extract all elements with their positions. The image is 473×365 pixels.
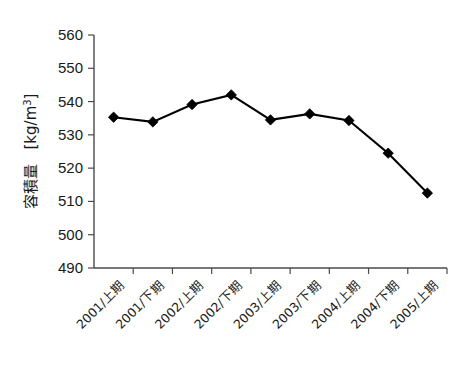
chart-figure: 490500510520530540550560 容積量 [kg/m3] 200…: [0, 0, 473, 365]
y-tick-label: 510: [58, 192, 83, 209]
y-tick-label: 530: [58, 126, 83, 143]
line-chart: 490500510520530540550560 容積量 [kg/m3] 200…: [0, 0, 473, 365]
y-tick-label: 520: [58, 159, 83, 176]
y-axis-title: 容積量 [kg/m3]: [22, 94, 41, 210]
y-tick-label: 490: [58, 259, 83, 276]
y-tick-label: 550: [58, 59, 83, 76]
y-tick-label: 540: [58, 93, 83, 110]
y-tick-label: 560: [58, 26, 83, 43]
y-axis-title-text: 容積量 [kg/m3]: [22, 94, 41, 210]
y-tick-label: 500: [58, 226, 83, 243]
